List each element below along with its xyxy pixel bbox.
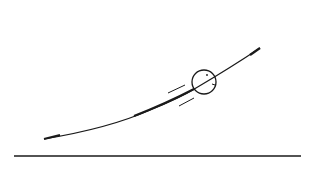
motion-line-lower xyxy=(179,98,194,106)
trajectory-end-tick xyxy=(250,48,260,55)
ball-icon xyxy=(192,70,216,94)
ball-mark-tick xyxy=(212,84,215,85)
motion-line-upper xyxy=(168,85,185,93)
diagram-canvas xyxy=(0,0,319,169)
trajectory-diagram xyxy=(0,0,319,169)
ball-mark-dot xyxy=(206,74,208,76)
trajectory-curve xyxy=(44,48,260,139)
